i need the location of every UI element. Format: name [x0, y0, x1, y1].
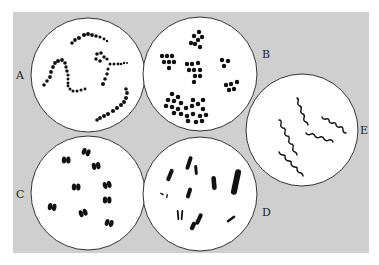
circle-e	[246, 74, 358, 186]
label-c: C	[16, 188, 24, 201]
label-e: E	[360, 124, 368, 137]
diagram-canvas	[0, 0, 379, 265]
label-d: D	[262, 206, 271, 219]
panel-e	[246, 74, 358, 186]
panel-c	[31, 136, 145, 250]
diagram: A B C D E	[0, 0, 379, 265]
label-b: B	[262, 48, 270, 61]
circle-d	[143, 137, 257, 251]
label-a: A	[16, 69, 24, 82]
panel-b	[143, 17, 257, 131]
panel-a	[31, 18, 145, 132]
panel-d	[143, 137, 257, 251]
